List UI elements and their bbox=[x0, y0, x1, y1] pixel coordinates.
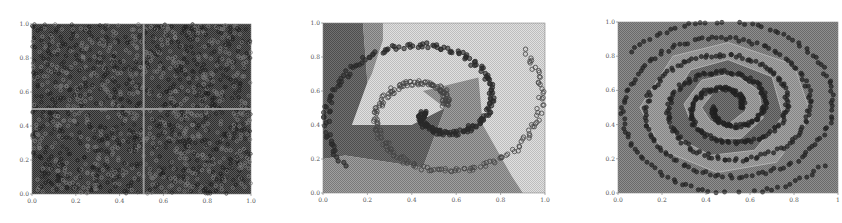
y-tick-label: 0.8 bbox=[605, 52, 615, 59]
y-tick-label: 1.0 bbox=[605, 18, 615, 25]
y-tick-label: 0.6 bbox=[605, 86, 615, 93]
y-tick-label: 0.4 bbox=[605, 121, 615, 128]
y-tick-label: 0.0 bbox=[605, 189, 615, 196]
x-tick-label: 0.2 bbox=[657, 196, 667, 203]
x-tick-label: 0.0 bbox=[613, 196, 623, 203]
multi-spiral-plot: 0.00.20.40.60.810.00.20.40.60.81.0 bbox=[0, 0, 842, 223]
x-tick-label: 0.6 bbox=[745, 196, 755, 203]
x-tick-label: 0.4 bbox=[701, 196, 711, 203]
y-tick-label: 0.2 bbox=[605, 155, 615, 162]
x-tick-label: 1 bbox=[836, 196, 840, 203]
x-tick-label: 0.8 bbox=[789, 196, 799, 203]
